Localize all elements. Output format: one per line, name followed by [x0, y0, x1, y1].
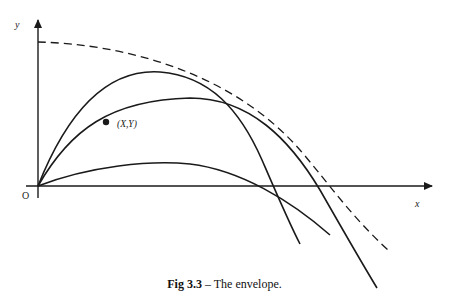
y-axis-label: y	[14, 19, 20, 30]
trajectory-middle	[38, 98, 377, 288]
origin-label: O	[22, 190, 29, 201]
envelope-diagram: (X,Y) y x O	[0, 0, 449, 305]
trajectory-high	[38, 72, 300, 244]
caption-text: – The envelope.	[202, 277, 282, 291]
envelope-curve	[38, 42, 388, 250]
x-axis-label: x	[414, 198, 420, 209]
trajectory-low	[38, 163, 330, 235]
caption-label: Fig 3.3	[167, 277, 202, 291]
point-label: (X,Y)	[117, 119, 137, 130]
figure-caption: Fig 3.3 – The envelope.	[0, 277, 449, 292]
point-marker	[103, 119, 109, 125]
